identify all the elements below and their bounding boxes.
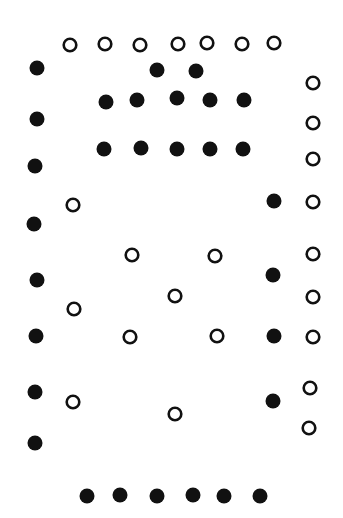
filled-dot bbox=[28, 436, 43, 451]
filled-dot bbox=[186, 488, 201, 503]
filled-dot bbox=[30, 273, 45, 288]
filled-dot bbox=[217, 489, 232, 504]
filled-dot bbox=[267, 194, 282, 209]
filled-dot bbox=[99, 95, 114, 110]
filled-dot bbox=[170, 91, 185, 106]
filled-dot bbox=[189, 64, 204, 79]
filled-dot bbox=[130, 93, 145, 108]
filled-dot bbox=[203, 93, 218, 108]
filled-dot bbox=[30, 112, 45, 127]
filled-dot bbox=[97, 142, 112, 157]
filled-dot bbox=[266, 394, 281, 409]
filled-dot bbox=[29, 329, 44, 344]
filled-dot bbox=[80, 489, 95, 504]
filled-dot bbox=[134, 141, 149, 156]
filled-dot bbox=[30, 61, 45, 76]
filled-dot bbox=[237, 93, 252, 108]
filled-dot bbox=[253, 489, 268, 504]
filled-dot bbox=[28, 385, 43, 400]
background bbox=[0, 0, 343, 518]
filled-dot bbox=[150, 489, 165, 504]
filled-dot bbox=[236, 142, 251, 157]
filled-dot bbox=[266, 268, 281, 283]
filled-dot bbox=[267, 329, 282, 344]
filled-dot bbox=[203, 142, 218, 157]
filled-dot bbox=[150, 63, 165, 78]
filled-dot bbox=[170, 142, 185, 157]
filled-dot bbox=[27, 217, 42, 232]
dot-pattern-figure bbox=[0, 0, 343, 518]
filled-dot bbox=[28, 159, 43, 174]
filled-dot bbox=[113, 488, 128, 503]
